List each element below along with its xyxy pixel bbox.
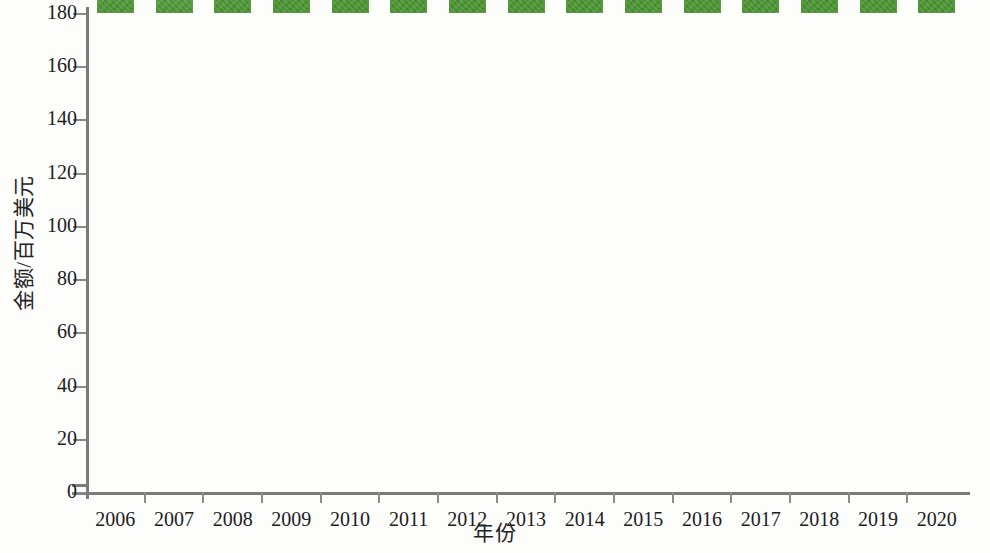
y-tick: 120 xyxy=(86,173,87,174)
bar xyxy=(801,0,838,13)
y-tick: 60 xyxy=(86,332,87,333)
x-axis-title: 年份 xyxy=(0,516,990,546)
y-tick-label: 140 xyxy=(47,107,77,129)
y-tick-label: 160 xyxy=(47,54,77,76)
y-tick-label: 20 xyxy=(57,427,77,449)
x-tick-mark xyxy=(906,492,908,503)
bar xyxy=(390,0,427,13)
x-tick-mark xyxy=(672,492,674,503)
x-tick-mark xyxy=(261,492,263,503)
bar xyxy=(625,0,662,13)
y-tick-label: 80 xyxy=(57,267,77,289)
y-tick-label: 40 xyxy=(57,374,77,396)
x-axis-line xyxy=(72,492,970,495)
x-tick-mark xyxy=(202,492,204,503)
bar xyxy=(156,0,193,13)
y-tick: 180 xyxy=(86,13,87,14)
bar xyxy=(918,0,955,13)
x-tick-mark xyxy=(730,492,732,503)
bar xyxy=(508,0,545,13)
plot-area: 020406080100120140160180 200620072008200… xyxy=(86,13,966,492)
y-tick-label: 120 xyxy=(47,161,77,183)
x-tick-mark xyxy=(144,492,146,503)
x-tick-mark xyxy=(437,492,439,503)
y-tick: 0 xyxy=(86,492,87,493)
y-tick-label: 100 xyxy=(47,214,77,236)
y-tick-label: 180 xyxy=(47,1,77,23)
y-axis-line xyxy=(86,7,89,499)
bar xyxy=(860,0,897,13)
y-tick: 40 xyxy=(86,386,87,387)
y-tick-label: 60 xyxy=(57,320,77,342)
x-tick-mark xyxy=(613,492,615,503)
bar xyxy=(566,0,603,13)
y-tick-label: 0 xyxy=(67,480,77,502)
x-tick-mark xyxy=(378,492,380,503)
x-tick-mark xyxy=(848,492,850,503)
bar xyxy=(742,0,779,13)
bar xyxy=(97,0,134,13)
y-tick: 160 xyxy=(86,66,87,67)
y-tick: 100 xyxy=(86,226,87,227)
x-tick-mark xyxy=(789,492,791,503)
y-tick: 140 xyxy=(86,119,87,120)
bar xyxy=(332,0,369,13)
y-tick: 80 xyxy=(86,279,87,280)
bar xyxy=(449,0,486,13)
y-axis-title: 金额/百万美元 xyxy=(7,143,37,343)
x-tick-mark xyxy=(320,492,322,503)
bar xyxy=(273,0,310,13)
bar xyxy=(214,0,251,13)
x-tick-mark xyxy=(496,492,498,503)
x-tick-mark xyxy=(554,492,556,503)
y-tick: 20 xyxy=(86,439,87,440)
bar-chart: 金额/百万美元 020406080100120140160180 2006200… xyxy=(0,0,990,553)
bar xyxy=(684,0,721,13)
